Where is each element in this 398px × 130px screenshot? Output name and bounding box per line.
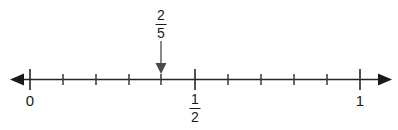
tick-label-one-half: 1 2 [190, 92, 201, 124]
annotation-denominator: 5 [156, 26, 166, 40]
right-arrow-icon [378, 74, 392, 86]
annotation-numerator: 2 [156, 8, 166, 22]
half-denominator: 2 [190, 110, 200, 124]
tick-label-one: 1 [356, 93, 364, 108]
annotation-label-two-fifths: 2 5 [156, 8, 167, 40]
number-line-figure: 2 5 0 1 2 1 [0, 0, 398, 130]
half-numerator: 1 [190, 92, 200, 106]
left-arrow-icon [10, 74, 24, 86]
marker-arrow-head-icon [156, 63, 167, 74]
tick-label-zero: 0 [26, 93, 34, 108]
